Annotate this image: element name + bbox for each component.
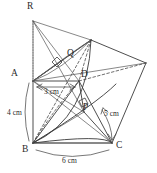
vertex-label-p: P: [83, 103, 88, 113]
edge-a-p: [33, 81, 84, 112]
dim-arc-ab: [25, 83, 29, 141]
arc-b-c-curve: [33, 139, 112, 144]
vertex-label-a: A: [11, 69, 18, 79]
edge-b-top-hidden: [33, 40, 91, 143]
edge-top-right: [91, 40, 146, 63]
dimension-label-ad: 3 cm: [44, 88, 59, 96]
vertex-label-d: D: [81, 70, 88, 80]
vertex-label-q: Q: [67, 49, 74, 59]
geometry-figure: R A B C D P Q 3 cm 4 cm 6 cm 5 cm: [0, 0, 157, 173]
dimension-label-dc: 5 cm: [104, 110, 119, 118]
edge-right-c: [112, 63, 146, 143]
dimension-label-bc: 6 cm: [62, 157, 77, 165]
vertex-label-r: R: [27, 2, 33, 12]
dimension-label-ab: 4 cm: [7, 109, 22, 117]
vertex-label-c: C: [116, 141, 122, 151]
vertex-label-b: B: [22, 145, 28, 155]
